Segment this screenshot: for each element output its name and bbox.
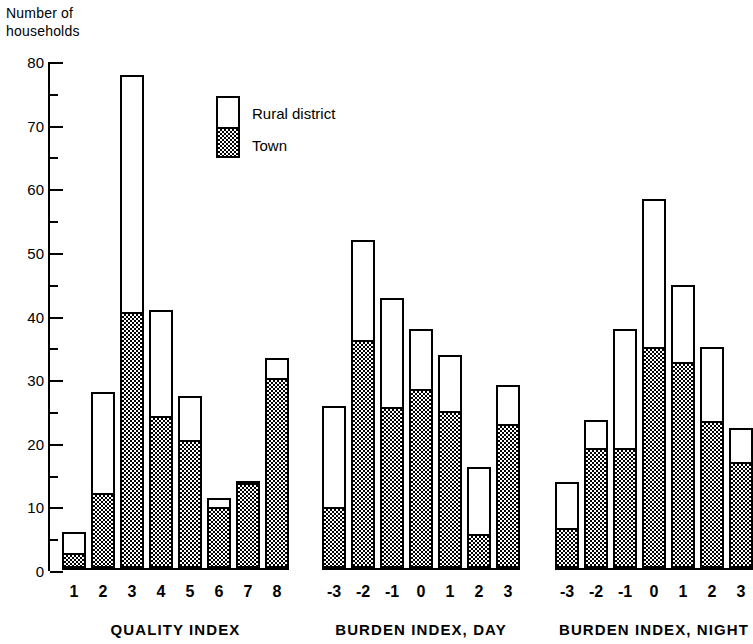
x-axis-tick-labels: -3-2-10123 — [322, 584, 520, 600]
chart-panel: 12345678QUALITY INDEX — [62, 0, 289, 644]
x-axis-tick-label: 7 — [236, 584, 260, 600]
stacked-bar — [120, 75, 144, 568]
stacked-bar — [62, 532, 86, 568]
bar-column — [351, 72, 375, 568]
bar-column — [700, 72, 724, 568]
x-axis-tick-label: -1 — [380, 584, 404, 600]
y-axis-minor-tick — [50, 221, 58, 223]
bar-segment-rural-district — [615, 331, 635, 448]
x-axis-tick-labels: -3-2-10123 — [555, 584, 753, 600]
stacked-bar — [351, 240, 375, 568]
bar-segment-town — [353, 340, 373, 566]
y-axis-minor-tick — [50, 412, 58, 414]
bar-segment-town — [64, 553, 84, 566]
x-axis-line — [62, 568, 289, 570]
bar-segment-town — [267, 378, 287, 566]
bar-column — [642, 72, 666, 568]
bar-segment-town — [469, 534, 489, 566]
bar-segment-rural-district — [731, 430, 751, 462]
bar-segment-town — [673, 362, 693, 566]
bar-segment-rural-district — [440, 357, 460, 412]
x-axis-tick-label: 4 — [149, 584, 173, 600]
bar-column — [149, 72, 173, 568]
bar-column — [236, 72, 260, 568]
panel-title: BURDEN INDEX, DAY — [322, 621, 520, 638]
x-axis-tick-label: 1 — [438, 584, 462, 600]
bar-column — [671, 72, 695, 568]
bar-column — [438, 72, 462, 568]
y-axis-tick-label: 50 — [4, 246, 44, 261]
x-axis-tick-label: 1 — [671, 584, 695, 600]
stacked-bar — [91, 392, 115, 568]
x-axis-tick-label: -2 — [584, 584, 608, 600]
stacked-bar — [729, 428, 753, 568]
x-axis-tick-label: 8 — [265, 584, 289, 600]
bar-column — [207, 72, 231, 568]
bar-segment-rural-district — [673, 287, 693, 363]
stacked-bar — [555, 482, 579, 568]
stacked-bar — [322, 406, 346, 568]
x-axis-tick-label: 1 — [62, 584, 86, 600]
y-axis-tick-label: 0 — [4, 564, 44, 579]
bar-segment-rural-district — [324, 408, 344, 507]
bar-column — [409, 72, 433, 568]
bar-segment-rural-district — [122, 77, 142, 312]
bar-column — [178, 72, 202, 568]
bar-segment-town — [93, 493, 113, 566]
stacked-bar — [236, 481, 260, 568]
bar-column — [265, 72, 289, 568]
bar-series — [555, 72, 753, 568]
bar-segment-rural-district — [644, 201, 664, 347]
bar-segment-rural-district — [702, 349, 722, 421]
bar-segment-town — [586, 448, 606, 566]
bar-segment-town — [498, 424, 518, 566]
stacked-bar — [178, 396, 202, 568]
x-axis-tick-label: -2 — [351, 584, 375, 600]
stacked-bar — [265, 358, 289, 568]
x-axis-tick-label: 2 — [467, 584, 491, 600]
bar-segment-town — [411, 389, 431, 566]
bar-column — [62, 72, 86, 568]
stacked-bar — [467, 467, 491, 568]
bar-segment-town — [702, 421, 722, 566]
bar-segment-town — [122, 312, 142, 567]
bar-column — [729, 72, 753, 568]
y-axis-minor-tick — [50, 157, 58, 159]
bar-column — [380, 72, 404, 568]
y-axis-tick-label: 20 — [4, 437, 44, 452]
x-axis-tick-label: 3 — [729, 584, 753, 600]
stacked-bar — [409, 329, 433, 568]
y-axis-minor-tick — [50, 348, 58, 350]
panel-title: BURDEN INDEX, NIGHT — [555, 621, 753, 638]
bar-segment-town — [382, 407, 402, 566]
bar-segment-town — [180, 440, 200, 566]
y-axis-tick-labels: 01020304050607080 — [0, 0, 44, 644]
bar-segment-rural-district — [498, 387, 518, 424]
y-axis-tick-label: 80 — [4, 55, 44, 70]
chart-panel: -3-2-10123BURDEN INDEX, DAY — [322, 0, 520, 644]
x-axis-tick-labels: 12345678 — [62, 584, 289, 600]
panel-title: QUALITY INDEX — [62, 621, 289, 638]
y-axis-tick-label: 30 — [4, 373, 44, 388]
x-axis-tick-label: 6 — [207, 584, 231, 600]
bar-column — [584, 72, 608, 568]
bar-segment-town — [238, 483, 258, 566]
bar-segment-town — [615, 448, 635, 566]
bar-segment-rural-district — [557, 484, 577, 528]
bar-segment-rural-district — [209, 500, 229, 507]
y-axis-tick-label: 10 — [4, 500, 44, 515]
x-axis-tick-label: 3 — [496, 584, 520, 600]
bar-segment-rural-district — [64, 534, 84, 553]
bar-column — [496, 72, 520, 568]
bar-segment-rural-district — [151, 312, 171, 416]
y-axis-minor-tick — [50, 476, 58, 478]
x-axis-tick-label: -3 — [322, 584, 346, 600]
bar-segment-rural-district — [93, 394, 113, 493]
bar-segment-rural-district — [382, 300, 402, 407]
x-axis-tick-label: 2 — [700, 584, 724, 600]
bar-series — [62, 72, 289, 568]
bar-segment-town — [151, 416, 171, 566]
stacked-bar — [584, 420, 608, 568]
y-axis-tick-label: 70 — [4, 119, 44, 134]
